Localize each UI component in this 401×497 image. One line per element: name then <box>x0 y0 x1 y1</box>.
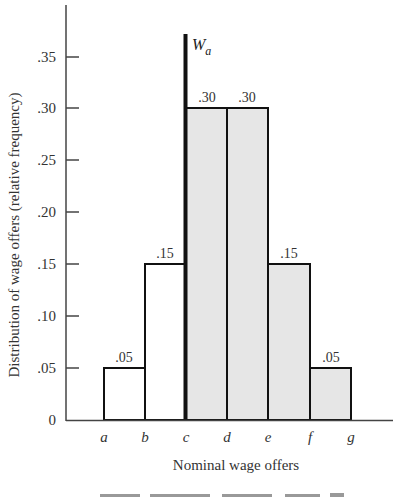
y-tick-05: .05 <box>37 360 56 376</box>
x-axis-title: Nominal wage offers <box>173 457 300 473</box>
y-tick-30: .30 <box>37 100 56 116</box>
bar-a-b <box>104 368 145 420</box>
y-axis-title: Distribution of wage offers (relative fr… <box>6 92 23 377</box>
bar-label-a-b: .05 <box>115 350 133 365</box>
x-label-g: g <box>347 429 355 445</box>
x-label-a: a <box>100 429 108 445</box>
x-label-f: f <box>308 429 314 445</box>
x-label-c: c <box>183 429 190 445</box>
y-tick-labels: 0 .05 .10 .15 .20 .25 .30 .35 <box>37 49 56 428</box>
y-ticks <box>66 57 79 368</box>
bar-label-c-d: .30 <box>198 90 216 105</box>
y-tick-15: .15 <box>37 256 56 272</box>
bar-label-e-f: .15 <box>280 246 298 261</box>
bar-b-c <box>145 264 186 420</box>
bar-label-b-c: .15 <box>156 246 174 261</box>
y-tick-10: .10 <box>37 308 56 324</box>
y-tick-0: 0 <box>49 412 57 428</box>
y-tick-20: .20 <box>37 204 56 220</box>
x-label-d: d <box>223 429 231 445</box>
bar-f-g <box>310 368 351 420</box>
x-label-b: b <box>141 429 149 445</box>
reservation-wage-label: Wa <box>192 36 211 58</box>
bar-d-e <box>227 108 268 420</box>
y-tick-25: .25 <box>37 152 56 168</box>
bar-label-f-g: .05 <box>322 350 340 365</box>
bars <box>104 108 351 420</box>
x-category-labels: a b c d e f g <box>100 429 355 445</box>
x-label-e: e <box>265 429 272 445</box>
histogram-chart: Distribution of wage offers (relative fr… <box>0 0 401 497</box>
bar-c-d <box>186 108 227 420</box>
y-tick-35: .35 <box>37 49 56 65</box>
clipped-caption-fragment <box>100 493 344 497</box>
bar-e-f <box>268 264 310 420</box>
bar-label-d-e: .30 <box>238 90 256 105</box>
